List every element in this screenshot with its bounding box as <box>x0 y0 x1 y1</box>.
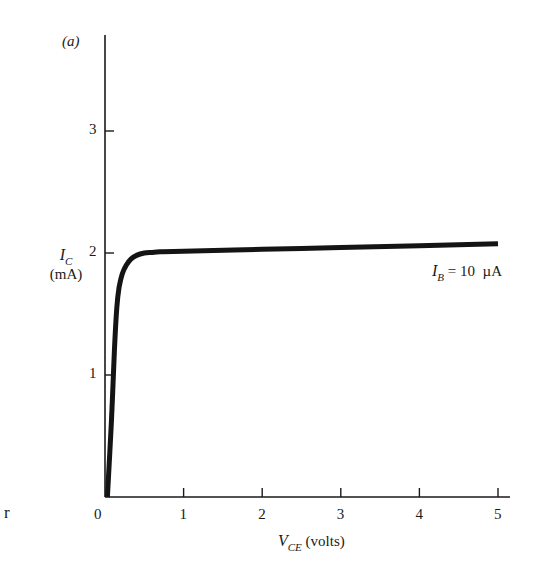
transistor-characteristic-chart <box>0 0 547 583</box>
margin-text: r <box>4 503 10 523</box>
y-axis-subscript: C <box>65 255 72 267</box>
y-tick-label: 1 <box>89 365 97 382</box>
x-tick-label: 3 <box>337 506 345 523</box>
y-tick-label: 3 <box>89 121 97 138</box>
x-tick-label: 0 <box>94 506 102 523</box>
x-axis-subscript: CE <box>288 541 302 553</box>
panel-label: (a) <box>62 33 80 50</box>
x-axis-unit: (volts) <box>302 533 345 549</box>
x-tick-label: 4 <box>415 506 423 523</box>
y-axis-unit: (mA) <box>38 266 94 283</box>
x-tick-label: 2 <box>258 506 266 523</box>
x-tick-label: 1 <box>180 506 188 523</box>
x-tick-label: 5 <box>494 506 502 523</box>
x-axis-symbol: V <box>278 532 288 549</box>
x-axis-title: VCE (volts) <box>278 532 345 550</box>
y-axis-title: IC (mA) <box>38 246 94 283</box>
series-annotation: IB = 10 µA <box>432 262 502 280</box>
annotation-subscript: B <box>437 271 444 283</box>
annotation-value: = 10 µA <box>444 263 502 279</box>
